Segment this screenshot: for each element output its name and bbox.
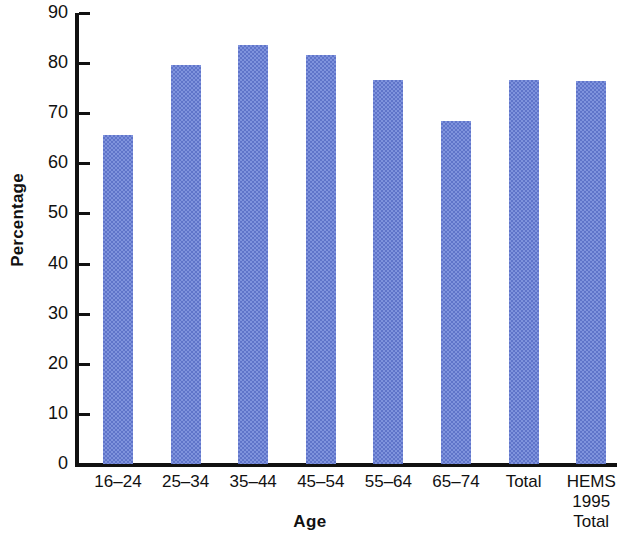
bar <box>171 65 201 464</box>
x-axis-title: Age <box>80 512 540 532</box>
x-axis-category-label: HEMS 1995 Total <box>545 472 617 532</box>
bar <box>576 81 606 464</box>
bar <box>103 135 133 464</box>
bars-layer <box>0 0 617 537</box>
bar-chart: Percentage 0102030405060708090 16–2425–3… <box>0 0 617 537</box>
bar <box>306 55 336 464</box>
bar <box>441 121 471 464</box>
bar <box>238 45 268 464</box>
bar <box>373 80 403 464</box>
bar <box>509 80 539 464</box>
